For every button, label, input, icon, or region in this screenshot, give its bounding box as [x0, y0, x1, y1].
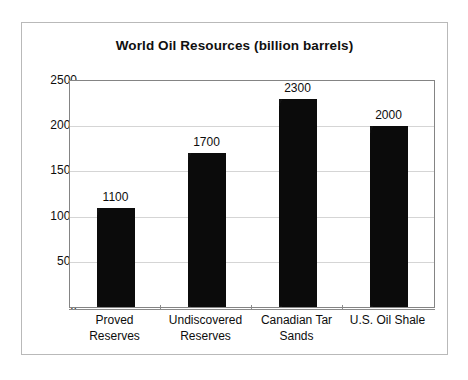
x-axis-category-labels: ProvedReservesUndiscoveredReservesCanadi… [69, 313, 435, 359]
x-axis-category-label-line: Reserves [160, 329, 251, 345]
x-axis-category-label: UndiscoveredReserves [160, 313, 251, 344]
bar-value-label: 2000 [375, 108, 402, 122]
bar-slot: 1100 [70, 81, 161, 307]
chart-title: World Oil Resources (billion barrels) [22, 38, 447, 53]
bar[interactable] [279, 99, 317, 307]
x-axis-category-label-line: Proved [69, 313, 160, 329]
x-axis-category-label: Canadian TarSands [251, 313, 342, 344]
x-axis-separator-tick [342, 305, 343, 310]
x-axis-separator-tick [251, 305, 252, 310]
bar[interactable] [370, 126, 408, 307]
bar-value-label: 2300 [284, 81, 311, 95]
x-axis-category-label-line: Canadian Tar [251, 313, 342, 329]
x-axis-category-label-line: Reserves [69, 329, 160, 345]
x-axis-category-label-line: Undiscovered [160, 313, 251, 329]
bar[interactable] [188, 153, 226, 307]
chart-frame: World Oil Resources (billion barrels) 05… [21, 22, 448, 355]
x-axis-category-label: ProvedReserves [69, 313, 160, 344]
bar-slot: 1700 [161, 81, 252, 307]
x-axis-category-label: U.S. Oil Shale [342, 313, 433, 329]
x-axis-separator-tick [160, 305, 161, 310]
plot-area: 1100170023002000 [69, 80, 435, 308]
bar-value-label: 1700 [193, 135, 220, 149]
bar-value-label: 1100 [103, 190, 129, 204]
x-axis-category-label-line: U.S. Oil Shale [342, 313, 433, 329]
x-axis-line [69, 309, 435, 310]
bar-slot: 2300 [252, 81, 343, 307]
bar[interactable] [97, 208, 135, 307]
x-axis-category-label-line: Sands [251, 329, 342, 345]
bar-slot: 2000 [343, 81, 434, 307]
